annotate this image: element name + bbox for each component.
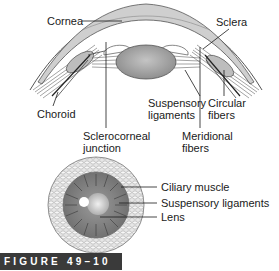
label-sclerocorneal-junction-line1: Sclerocorneal — [83, 130, 150, 142]
lens-side-view — [116, 45, 176, 79]
label-ciliary-muscle: Ciliary muscle — [161, 181, 229, 193]
label-cornea: Cornea — [47, 15, 83, 27]
label-suspensory-ligaments: Suspensory ligaments — [161, 197, 269, 209]
label-lens: Lens — [161, 211, 185, 223]
figure-caption-banner: FIGURE 49–10 — [0, 253, 122, 270]
label-suspensory-ligaments-line1: Suspensory — [148, 97, 206, 109]
label-circular-fibers-line2: fibers — [208, 109, 235, 121]
ciliary-cross-section — [48, 157, 144, 253]
label-choroid: Choroid — [37, 108, 76, 120]
label-circular-fibers-line1: Circular — [208, 97, 246, 109]
label-meridional-fibers-line2: fibers — [182, 142, 209, 154]
label-meridional-fibers-line1: Meridional — [182, 130, 233, 142]
label-sclerocorneal-junction-line2: junction — [83, 142, 121, 154]
label-sclera: Sclera — [216, 16, 247, 28]
label-suspensory-ligaments-line2: ligaments — [148, 109, 195, 121]
